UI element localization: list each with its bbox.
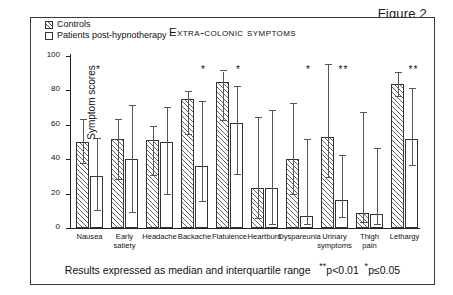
chart-panel: Extra-colonic symptoms Symptom scores 02…	[30, 17, 435, 285]
x-axis-label: Heartburn	[248, 232, 282, 241]
bar-group: **Urinary symptoms	[321, 56, 348, 228]
x-axis-label: Urinary symptoms	[317, 232, 352, 250]
bar-group: Early satiety	[111, 56, 138, 228]
bar-group: Thigh pain	[356, 56, 383, 228]
y-axis-tick: 80	[66, 90, 70, 91]
error-bar-cap	[185, 134, 192, 135]
error-bar-cap	[339, 217, 346, 218]
error-bar	[363, 113, 364, 223]
x-axis-label: Thigh pain	[360, 232, 379, 250]
x-axis-line	[70, 228, 420, 229]
error-bar-cap	[199, 201, 206, 202]
x-axis-label: Headache	[142, 232, 177, 241]
bar-group: *Nausea	[76, 56, 103, 228]
error-bar-cap	[115, 119, 122, 120]
error-bar	[188, 92, 189, 135]
legend-label-patients: Patients post-hypnotherapy	[57, 30, 167, 41]
error-bar-cap	[220, 120, 227, 121]
error-bar-cap	[80, 119, 87, 120]
error-bar	[398, 73, 399, 97]
caption-text: Results expressed as median and interqua…	[65, 263, 311, 275]
x-axis-label: Early satiety	[114, 232, 136, 250]
legend-swatch-patients-icon	[45, 32, 53, 40]
bar-group: *Flatulence	[216, 56, 243, 228]
significance-marker: *	[236, 66, 241, 74]
error-bar	[307, 140, 308, 224]
x-axis-label: Dyspareunia	[278, 232, 321, 241]
error-bar-cap	[325, 64, 332, 65]
bar-group: *Backache	[181, 56, 208, 228]
x-axis-label: Backache	[178, 232, 211, 241]
error-bar-cap	[269, 110, 276, 111]
chart-legend: Controls Patients post-hypnotherapy	[45, 19, 167, 41]
bar-group: Headache	[146, 56, 173, 228]
error-bar-cap	[325, 177, 332, 178]
significance-marker: *	[96, 66, 101, 74]
error-bar-cap	[395, 72, 402, 73]
error-bar-cap	[304, 139, 311, 140]
error-bar-cap	[409, 165, 416, 166]
chart-caption: Results expressed as median and interqua…	[31, 261, 434, 276]
figure-container: Figure 2 Extra-colonic symptoms Symptom …	[0, 0, 453, 295]
y-axis-tick: 40	[66, 159, 70, 160]
error-bar-cap	[150, 175, 157, 176]
error-bar-cap	[94, 210, 101, 211]
error-bar-cap	[164, 194, 171, 195]
bar-group: Heartburn	[251, 56, 278, 228]
y-axis-line	[70, 54, 71, 229]
error-bar	[328, 65, 329, 179]
error-bar	[153, 127, 154, 177]
error-bar-cap	[255, 117, 262, 118]
error-bar	[118, 120, 119, 180]
legend-swatch-controls-icon	[45, 21, 53, 29]
error-bar	[83, 120, 84, 165]
error-bar-cap	[220, 70, 227, 71]
y-axis-tick-label: 40	[51, 153, 60, 162]
y-axis-tick: 20	[66, 194, 70, 195]
x-axis-label: Lethargy	[390, 232, 420, 241]
bar-group: *Dyspareunia	[286, 56, 313, 228]
bar-controls	[391, 84, 404, 228]
error-bar	[167, 108, 168, 196]
error-bar-cap	[185, 91, 192, 92]
significance-marker: **	[339, 66, 349, 74]
y-axis-tick: 100	[66, 56, 70, 57]
caption-note-double: p<0.01	[326, 263, 358, 275]
error-bar-cap	[374, 148, 381, 149]
error-bar	[342, 156, 343, 218]
y-axis-tick-label: 80	[51, 84, 60, 93]
error-bar-cap	[255, 218, 262, 219]
error-bar	[223, 72, 224, 122]
error-bar	[97, 139, 98, 211]
y-axis-tick-label: 20	[51, 188, 60, 197]
error-bar-cap	[234, 86, 241, 87]
error-bar-cap	[129, 105, 136, 106]
error-bar-cap	[94, 138, 101, 139]
plot-area: Symptom scores 020406080100 *NauseaEarly…	[70, 57, 420, 229]
significance-marker: *	[306, 66, 311, 74]
x-axis-label: Flatulence	[212, 232, 247, 241]
error-bar	[272, 111, 273, 225]
error-bar-cap	[115, 179, 122, 180]
error-bar	[237, 87, 238, 175]
error-bar	[293, 104, 294, 195]
error-bar	[258, 118, 259, 219]
error-bar-cap	[304, 224, 311, 225]
error-bar-cap	[290, 194, 297, 195]
error-bar-cap	[395, 96, 402, 97]
error-bar	[202, 102, 203, 202]
error-bar-cap	[290, 103, 297, 104]
legend-item-patients: Patients post-hypnotherapy	[45, 30, 167, 41]
error-bar	[132, 106, 133, 213]
error-bar	[412, 89, 413, 166]
caption-note-single: p≤0.05	[368, 263, 400, 275]
error-bar-cap	[129, 212, 136, 213]
y-axis-tick-label: 0	[56, 222, 60, 231]
bar-group: **Lethargy	[391, 56, 418, 228]
error-bar-cap	[360, 222, 367, 223]
significance-marker: **	[409, 66, 419, 74]
error-bar-cap	[409, 88, 416, 89]
error-bar-cap	[150, 126, 157, 127]
error-bar-cap	[164, 107, 171, 108]
error-bar-cap	[80, 163, 87, 164]
